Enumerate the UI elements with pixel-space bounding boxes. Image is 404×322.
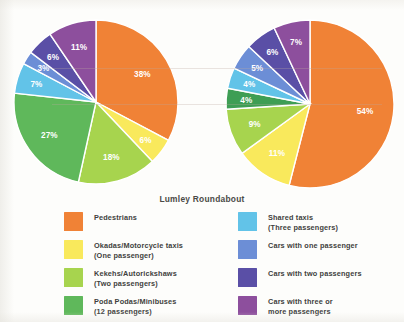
legend-swatch [238, 212, 257, 231]
legend: PedestriansOkadas/Motorcycle taxis (One … [0, 212, 404, 322]
legend-swatch [64, 296, 83, 315]
legend-label: Pedestrians [94, 212, 137, 223]
pie-slice-label: 7% [290, 38, 303, 47]
pie-slice-label: 54% [357, 107, 374, 116]
figure-page: 38%6%18%27%7%3%6%11% 54%11%9%4%4%5%6%7% … [0, 0, 404, 322]
pie-slice-label: 4% [240, 96, 253, 105]
legend-item[interactable]: Cars with two passengers [238, 268, 404, 289]
pie-right-svg: 54%11%9%4%4%5%6%7% [224, 18, 396, 190]
pie-slice-label: 38% [134, 70, 151, 79]
pie-slice-label: 5% [251, 64, 264, 73]
legend-column-right: Shared taxis (Three passengers)Cars with… [238, 212, 404, 322]
pie-slice-label: 6% [47, 53, 60, 62]
pie-chart-left: 38%6%18%27%7%3%6%11% [12, 18, 180, 190]
pie-chart-right: 54%11%9%4%4%5%6%7% [224, 18, 396, 194]
pie-slice-label: 7% [30, 80, 43, 89]
legend-label: Poda Podas/Minibuses (12 passengers) [94, 296, 176, 316]
pie-slice-label: 6% [266, 48, 279, 57]
page-title: Lumley Roundabout [0, 194, 404, 204]
legend-item[interactable]: Shared taxis (Three passengers) [238, 212, 404, 233]
pie-slice-label: 11% [71, 43, 88, 52]
pie-slice-label: 6% [140, 136, 153, 145]
legend-swatch [64, 212, 83, 231]
legend-item[interactable]: Okadas/Motorcycle taxis (One passenger) [64, 240, 242, 261]
legend-item[interactable]: Cars with one passenger [238, 240, 404, 261]
legend-label: Cars with three or more passengers [268, 296, 333, 316]
legend-swatch [64, 268, 83, 287]
legend-swatch [238, 240, 257, 259]
legend-label: Cars with two passengers [268, 268, 362, 279]
legend-item[interactable]: Pedestrians [64, 212, 242, 233]
pie-slice-label: 11% [269, 149, 286, 158]
legend-item[interactable]: Cars with three or more passengers [238, 296, 404, 317]
legend-label: Shared taxis (Three passengers) [268, 212, 338, 232]
legend-item[interactable]: Poda Podas/Minibuses (12 passengers) [64, 296, 242, 317]
legend-label: Cars with one passenger [268, 240, 358, 251]
pie-slice-label: 9% [249, 120, 262, 129]
legend-item[interactable]: Kekehs/Autorickshaws (Two passengers) [64, 268, 242, 289]
pie-slice-label: 18% [103, 153, 120, 162]
legend-label: Okadas/Motorcycle taxis (One passenger) [94, 240, 183, 260]
pie-slice-label: 27% [41, 131, 58, 140]
charts-area: 38%6%18%27%7%3%6%11% 54%11%9%4%4%5%6%7% [0, 0, 404, 196]
pie-slice-label: 4% [243, 80, 256, 89]
legend-swatch [238, 296, 257, 315]
legend-swatch [238, 268, 257, 287]
legend-column-left: PedestriansOkadas/Motorcycle taxis (One … [64, 212, 242, 322]
legend-label: Kekehs/Autorickshaws (Two passengers) [94, 268, 177, 288]
legend-swatch [64, 240, 83, 259]
pie-left-svg: 38%6%18%27%7%3%6%11% [12, 18, 180, 186]
